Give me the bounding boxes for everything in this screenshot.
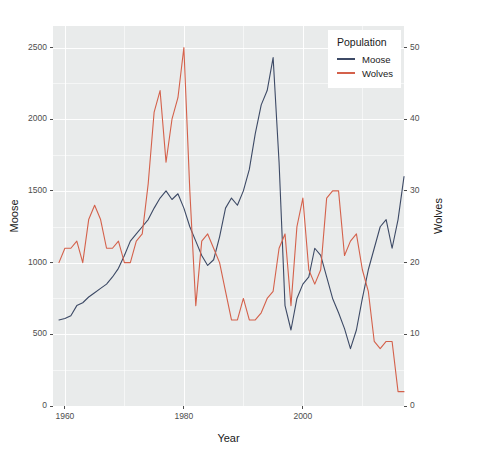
y-left-tick-label: 500 <box>33 328 47 338</box>
tick-mark <box>64 406 65 409</box>
y-right-tick-label: 20 <box>410 257 419 267</box>
y-left-tick-label: 2000 <box>28 113 47 123</box>
y-left-tick-label: 1500 <box>28 185 47 195</box>
legend-item-moose[interactable]: Moose <box>336 53 393 65</box>
legend-label-moose: Moose <box>362 54 391 65</box>
tick-mark <box>50 47 53 48</box>
legend-label-wolves: Wolves <box>362 68 393 79</box>
y-right-tick-label: 40 <box>410 113 419 123</box>
gridline-horizontal <box>53 406 404 407</box>
y-right-tick-label: 50 <box>410 42 419 52</box>
legend-item-wolves[interactable]: Wolves <box>336 67 393 79</box>
tick-mark <box>50 334 53 335</box>
tick-mark <box>404 47 407 48</box>
y-right-tick-label: 0 <box>410 400 415 410</box>
tick-mark <box>50 119 53 120</box>
x-tick-label: 1980 <box>174 411 193 421</box>
x-tick-label: 2000 <box>293 411 312 421</box>
tick-mark <box>404 119 407 120</box>
tick-mark <box>404 406 407 407</box>
chart-root: 05001000150020002500 01020304050 1960198… <box>0 0 477 462</box>
tick-mark <box>404 190 407 191</box>
tick-mark <box>183 406 184 409</box>
tick-mark <box>302 406 303 409</box>
y-right-tick-label: 30 <box>410 185 419 195</box>
series-line-moose <box>59 58 404 349</box>
tick-mark <box>50 262 53 263</box>
tick-mark <box>50 190 53 191</box>
legend-swatch-moose <box>336 53 356 65</box>
legend: Population Moose Wolves <box>328 30 401 88</box>
x-tick-label: 1960 <box>55 411 74 421</box>
y-left-tick-label: 0 <box>42 400 47 410</box>
series-line-wolves <box>59 48 404 392</box>
tick-mark <box>50 406 53 407</box>
y-left-tick-label: 2500 <box>28 42 47 52</box>
legend-title: Population <box>337 36 393 48</box>
y-left-tick-label: 1000 <box>28 257 47 267</box>
x-axis-title: Year <box>217 432 239 444</box>
legend-swatch-wolves <box>336 67 356 79</box>
y-axis-left-title: Moose <box>8 199 20 232</box>
tick-mark <box>404 334 407 335</box>
y-axis-right-title: Wolves <box>432 198 444 234</box>
y-right-tick-label: 10 <box>410 328 419 338</box>
tick-mark <box>404 262 407 263</box>
